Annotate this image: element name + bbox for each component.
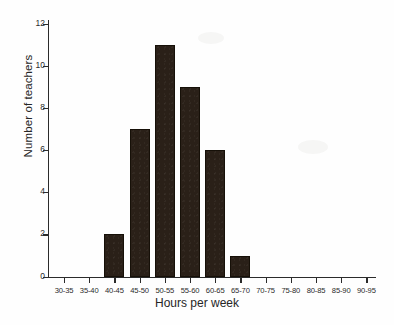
- x-tick-mark: [316, 277, 317, 283]
- y-tick-label: 6: [23, 144, 45, 154]
- y-tick-label: 2: [23, 228, 45, 238]
- histogram-chart: Number of teachers 024681012 30-3535-404…: [0, 0, 394, 325]
- bar-60-65: [205, 150, 225, 277]
- x-tick-mark: [89, 277, 90, 283]
- x-tick-mark: [240, 277, 241, 283]
- y-tick-label: 8: [23, 102, 45, 112]
- x-tick-mark: [341, 277, 342, 283]
- x-tick-mark: [190, 277, 191, 283]
- x-axis-line: [48, 277, 376, 278]
- x-tick-label-90-95: 90-95: [349, 286, 383, 295]
- y-tick-label: 12: [23, 18, 45, 28]
- scan-artifact: [298, 140, 328, 154]
- bar-50-55: [155, 45, 175, 277]
- bar-40-45: [104, 234, 124, 276]
- x-tick-mark: [165, 277, 166, 283]
- y-tick-label: 0: [23, 271, 45, 281]
- scan-artifact: [198, 32, 224, 44]
- x-tick-mark: [266, 277, 267, 283]
- x-axis-title: Hours per week: [0, 296, 394, 310]
- x-tick-mark: [291, 277, 292, 283]
- bar-65-70: [230, 256, 250, 277]
- x-tick-mark: [64, 277, 65, 283]
- x-tick-mark: [215, 277, 216, 283]
- x-tick-mark: [140, 277, 141, 283]
- bar-55-60: [180, 87, 200, 277]
- x-tick-mark: [114, 277, 115, 283]
- x-tick-mark: [366, 277, 367, 283]
- bar-45-50: [130, 129, 150, 277]
- plot-area: 024681012 30-3535-4040-4545-5050-5555-60…: [48, 20, 378, 278]
- y-axis-line: [48, 20, 49, 278]
- y-tick-label: 4: [23, 186, 45, 196]
- y-tick-label: 10: [23, 60, 45, 70]
